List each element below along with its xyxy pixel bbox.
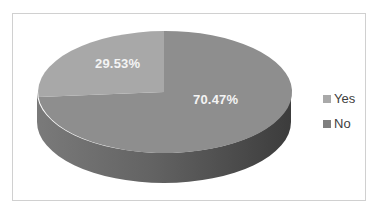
legend-item-no[interactable]: No [323, 111, 355, 136]
legend: Yes No [323, 86, 355, 136]
legend-swatch-no [323, 120, 331, 128]
legend-label-yes: Yes [334, 91, 355, 106]
legend-label-no: No [334, 116, 351, 131]
legend-swatch-yes [323, 95, 331, 103]
data-label-no: 70.47% [193, 92, 238, 107]
pie-chart-3d [0, 0, 378, 212]
legend-item-yes[interactable]: Yes [323, 86, 355, 111]
data-label-yes: 29.53% [95, 56, 140, 71]
